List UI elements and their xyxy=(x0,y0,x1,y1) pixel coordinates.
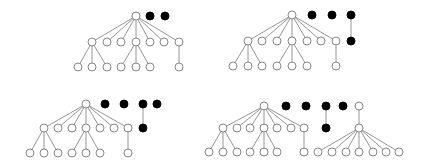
hollow-node xyxy=(260,102,268,110)
panel-top-right xyxy=(229,11,355,70)
tree-edge xyxy=(44,104,86,128)
hollow-node xyxy=(300,124,308,132)
hollow-node xyxy=(382,148,390,156)
hollow-node xyxy=(88,38,96,46)
filled-node xyxy=(322,102,330,110)
tree-edge xyxy=(359,128,399,152)
filled-node xyxy=(139,124,147,132)
hollow-node xyxy=(160,38,168,46)
hollow-node xyxy=(82,149,90,157)
hollow-node xyxy=(40,124,48,132)
hollow-node xyxy=(287,124,295,132)
hollow-node xyxy=(273,124,281,132)
hollow-node xyxy=(219,148,227,156)
filled-node xyxy=(146,12,154,20)
hollow-node xyxy=(117,38,125,46)
hollow-node xyxy=(68,124,76,132)
filled-node xyxy=(282,102,290,110)
hollow-node xyxy=(82,100,90,108)
tree-edge xyxy=(292,15,307,41)
hollow-node xyxy=(96,149,104,157)
filled-node xyxy=(339,102,347,110)
tree-edge xyxy=(223,106,264,128)
tree-diagram-figure xyxy=(0,0,423,167)
panel-top-left xyxy=(74,12,183,71)
panel-bottom-left xyxy=(26,100,161,157)
hollow-node xyxy=(175,38,183,46)
hollow-node xyxy=(132,38,140,46)
hollow-node xyxy=(303,37,311,45)
tree-edge xyxy=(121,16,136,42)
hollow-node xyxy=(288,37,296,45)
hollow-node xyxy=(229,62,237,70)
filled-node xyxy=(322,124,330,132)
hollow-node xyxy=(288,11,296,19)
filled-node xyxy=(328,11,336,19)
hollow-node xyxy=(288,62,296,70)
hollow-node xyxy=(124,124,132,132)
hollow-node xyxy=(175,63,183,71)
hollow-node xyxy=(233,148,241,156)
hollow-node xyxy=(332,37,340,45)
hollow-node xyxy=(54,124,62,132)
filled-node xyxy=(153,100,161,108)
hollow-node xyxy=(132,63,140,71)
filled-node xyxy=(347,37,355,45)
hollow-node xyxy=(314,148,322,156)
hollow-node xyxy=(244,37,252,45)
hollow-node xyxy=(258,62,266,70)
hollow-node xyxy=(132,12,140,20)
hollow-node xyxy=(303,62,311,70)
hollow-node xyxy=(68,149,76,157)
hollow-node xyxy=(124,149,132,157)
hollow-node xyxy=(233,124,241,132)
hollow-node xyxy=(117,63,125,71)
hollow-node xyxy=(260,124,268,132)
filled-node xyxy=(308,11,316,19)
hollow-node xyxy=(40,149,48,157)
tree-edge xyxy=(136,16,179,42)
tree-edge xyxy=(92,16,136,42)
hollow-node xyxy=(88,63,96,71)
hollow-node xyxy=(246,124,254,132)
hollow-node xyxy=(96,124,104,132)
hollow-node xyxy=(332,62,340,70)
hollow-node xyxy=(273,148,281,156)
hollow-node xyxy=(244,62,252,70)
tree-edge xyxy=(248,15,292,41)
hollow-node xyxy=(355,102,363,110)
hollow-node xyxy=(103,63,111,71)
hollow-node xyxy=(273,62,281,70)
filled-node xyxy=(161,12,169,20)
hollow-node xyxy=(246,148,254,156)
hollow-node xyxy=(300,148,308,156)
filled-node xyxy=(139,100,147,108)
hollow-node xyxy=(219,124,227,132)
hollow-node xyxy=(146,63,154,71)
hollow-node xyxy=(54,149,62,157)
hollow-node xyxy=(355,148,363,156)
hollow-node xyxy=(317,37,325,45)
hollow-node xyxy=(146,38,154,46)
hollow-node xyxy=(26,149,34,157)
hollow-node xyxy=(258,37,266,45)
hollow-node xyxy=(328,148,336,156)
hollow-node xyxy=(260,148,268,156)
filled-node xyxy=(302,102,310,110)
hollow-node xyxy=(103,38,111,46)
hollow-node xyxy=(342,148,350,156)
hollow-node xyxy=(82,124,90,132)
hollow-node xyxy=(273,37,281,45)
hollow-node xyxy=(355,124,363,132)
hollow-node xyxy=(205,148,213,156)
hollow-node xyxy=(369,148,377,156)
hollow-node xyxy=(110,124,118,132)
hollow-node xyxy=(74,63,82,71)
filled-node xyxy=(101,100,109,108)
tree-edge xyxy=(277,15,292,41)
filled-node xyxy=(347,11,355,19)
panel-bottom-right xyxy=(205,102,403,156)
hollow-node xyxy=(395,148,403,156)
filled-node xyxy=(120,100,128,108)
